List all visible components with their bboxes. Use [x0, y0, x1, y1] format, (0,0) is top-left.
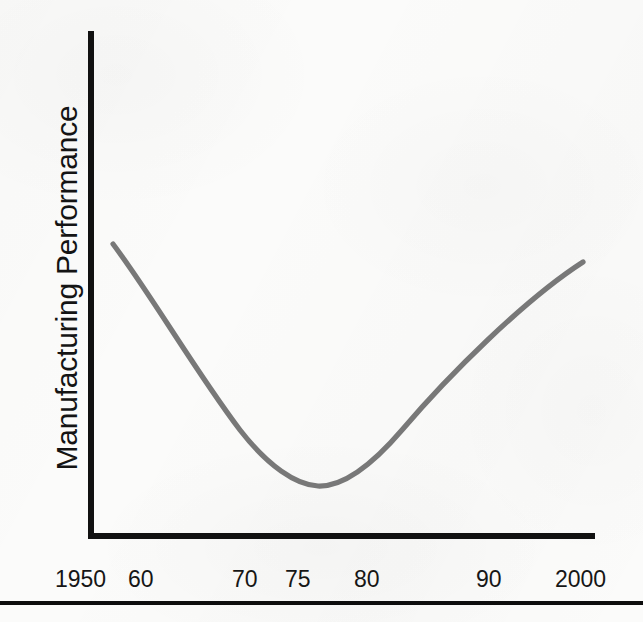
x-tick-label-90: 90 [476, 566, 502, 593]
data-series-line [113, 244, 583, 486]
plot-area [0, 0, 643, 622]
x-axis-line [88, 533, 595, 539]
x-tick-label-1950: 1950 [55, 566, 106, 593]
x-tick-label-80: 80 [354, 566, 380, 593]
x-tick-label-60: 60 [128, 566, 154, 593]
x-tick-label-2000: 2000 [555, 566, 606, 593]
y-axis-title: Manufacturing Performance [45, 58, 89, 518]
page-bottom-rule [0, 601, 643, 605]
x-tick-label-75: 75 [285, 566, 311, 593]
x-tick-label-70: 70 [232, 566, 258, 593]
chart-figure: Manufacturing Performance 1950 60 70 75 … [0, 0, 643, 622]
